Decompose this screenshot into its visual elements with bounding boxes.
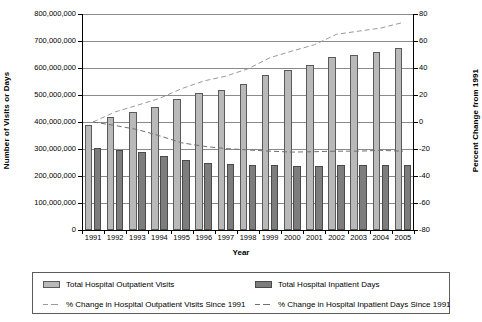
legend-row-2: % Change in Hospital Outpatient Visits S… — [33, 294, 451, 315]
y-axis-left-tick-label: 700,000,000 — [14, 37, 76, 45]
y-axis-left-tick-mark — [78, 176, 82, 177]
x-axis-tick-mark — [325, 230, 326, 234]
y-axis-right-tick-mark — [414, 203, 418, 204]
y-axis-right-tick-label: 80 — [419, 10, 453, 18]
x-axis-tick-mark — [82, 230, 83, 234]
x-axis-tick-mark — [281, 230, 282, 234]
x-axis-tick-mark — [259, 230, 260, 234]
y-axis-right-ticks: -80-60-40-20020406080 — [419, 0, 453, 230]
x-axis-tick-mark — [237, 230, 238, 234]
y-axis-left-tick-mark — [78, 95, 82, 96]
legend-label-outpatient-bars: Total Hospital Outpatient Visits — [66, 280, 174, 289]
y-axis-right-tick-label: -40 — [419, 172, 453, 180]
x-axis-tick-mark — [148, 230, 149, 234]
y-axis-left-tick-label: 800,000,000 — [14, 10, 76, 18]
y-axis-right-tick-label: 40 — [419, 64, 453, 72]
y-axis-left-ticks: 0100,000,000200,000,000300,000,000400,00… — [14, 0, 76, 230]
x-axis-tick-mark — [171, 230, 172, 234]
x-axis-tick-mark — [126, 230, 127, 234]
y-axis-right-tick-label: 0 — [419, 118, 453, 126]
x-axis-title: Year — [0, 248, 482, 257]
x-axis-tick-mark — [104, 230, 105, 234]
legend-swatch-outpatient-dashed-line-icon — [43, 301, 60, 308]
y-axis-right-tick-mark — [414, 14, 418, 15]
y-axis-left-tick-label: 100,000,000 — [14, 199, 76, 207]
y-axis-left-tick-mark — [78, 149, 82, 150]
x-axis-line — [82, 230, 414, 231]
legend-row-1: Total Hospital Outpatient Visits Total H… — [33, 274, 451, 295]
x-axis-tick-mark — [303, 230, 304, 234]
y-axis-left-tick-mark — [78, 122, 82, 123]
x-axis-tick-label: 2005 — [388, 233, 418, 242]
y-axis-right-tick-mark — [414, 122, 418, 123]
y-axis-left-tick-mark — [78, 14, 82, 15]
legend-swatch-outpatient-bar-icon — [43, 281, 60, 288]
x-axis-tick-mark — [392, 230, 393, 234]
y-axis-left-line — [82, 14, 83, 230]
y-axis-left-tick-label: 200,000,000 — [14, 172, 76, 180]
y-axis-left-title-text: Number of Visits or Days — [3, 71, 12, 168]
y-axis-right-tick-label: -60 — [419, 199, 453, 207]
legend-item-outpatient-pct: % Change in Hospital Outpatient Visits S… — [43, 294, 246, 315]
legend-label-outpatient-pct: % Change in Hospital Outpatient Visits S… — [66, 300, 246, 309]
legend-swatch-inpatient-bar-icon — [255, 281, 272, 288]
y-axis-right-tick-label: -20 — [419, 145, 453, 153]
y-axis-right-tick-label: 20 — [419, 91, 453, 99]
y-axis-right-tick-label: -80 — [419, 226, 453, 234]
y-axis-left-tick-label: 600,000,000 — [14, 64, 76, 72]
y-axis-left-tick-mark — [78, 203, 82, 204]
y-axis-right-tick-mark — [414, 95, 418, 96]
y-axis-left-tick-label: 500,000,000 — [14, 91, 76, 99]
y-axis-right-tick-label: 60 — [419, 37, 453, 45]
y-axis-left-tick-label: 0 — [14, 226, 76, 234]
y-axis-right-tick-mark — [414, 68, 418, 69]
y-axis-left-tick-label: 300,000,000 — [14, 145, 76, 153]
x-axis-tick-mark — [348, 230, 349, 234]
legend-item-outpatient-bars: Total Hospital Outpatient Visits — [43, 274, 174, 295]
y-axis-left-tick-label: 400,000,000 — [14, 118, 76, 126]
legend-label-inpatient-pct: % Change in Hospital Inpatient Days Sinc… — [278, 300, 451, 309]
chart-figure: Number of Visits or Days Percent Change … — [0, 0, 482, 322]
x-axis-tick-mark — [193, 230, 194, 234]
x-axis-tick-mark — [370, 230, 371, 234]
line-series — [93, 122, 403, 152]
y-axis-left-tick-mark — [78, 41, 82, 42]
line-series-group — [82, 14, 414, 230]
y-axis-right-title: Percent Change from 1991 — [468, 0, 482, 240]
y-axis-left-title: Number of Visits or Days — [0, 0, 15, 240]
legend-label-inpatient-bars: Total Hospital Inpatient Days — [278, 280, 379, 289]
chart-legend: Total Hospital Outpatient Visits Total H… — [32, 272, 450, 314]
x-axis-tick-mark — [215, 230, 216, 234]
legend-swatch-inpatient-dashed-line-icon — [255, 301, 272, 308]
y-axis-right-title-text: Percent Change from 1991 — [472, 68, 481, 171]
y-axis-left-tick-mark — [78, 68, 82, 69]
y-axis-right-tick-mark — [414, 176, 418, 177]
plot-area — [82, 14, 414, 230]
legend-item-inpatient-bars: Total Hospital Inpatient Days — [255, 274, 379, 295]
y-axis-right-tick-mark — [414, 149, 418, 150]
legend-item-inpatient-pct: % Change in Hospital Inpatient Days Sinc… — [255, 294, 451, 315]
y-axis-right-tick-mark — [414, 41, 418, 42]
x-axis-tick-mark — [414, 230, 415, 234]
line-series — [93, 23, 403, 122]
